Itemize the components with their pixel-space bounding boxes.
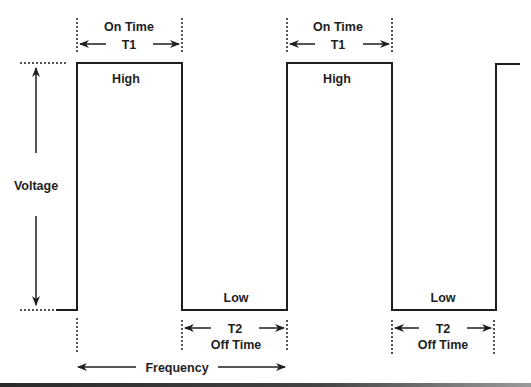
off-time-1-label: Off Time xyxy=(211,338,262,352)
high-2-label: High xyxy=(323,72,351,86)
on-time-1-label: On Time xyxy=(104,20,154,34)
low-2-label: Low xyxy=(431,291,456,305)
high-1-label: High xyxy=(112,72,140,86)
bottom-border xyxy=(0,383,531,387)
low-1-label: Low xyxy=(224,291,249,305)
t2-2-label: T2 xyxy=(436,322,451,336)
t1-1-label: T1 xyxy=(122,38,137,52)
off-time-2-label: Off Time xyxy=(418,338,469,352)
frequency-label: Frequency xyxy=(145,361,208,375)
t1-2-label: T1 xyxy=(331,38,346,52)
voltage-label: Voltage xyxy=(14,179,58,193)
square-waveform xyxy=(56,63,520,310)
square-wave-diagram: Voltage On Time T1 High On Time T1 High … xyxy=(0,0,531,387)
on-time-2-label: On Time xyxy=(313,20,363,34)
t2-1-label: T2 xyxy=(228,322,243,336)
